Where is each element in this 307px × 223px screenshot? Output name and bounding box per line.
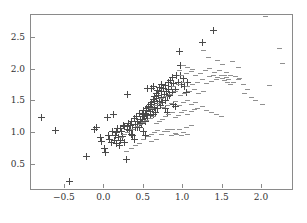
data-point-dash (160, 119, 165, 120)
data-point-dash (204, 110, 209, 111)
data-point-dash (212, 72, 217, 73)
data-point-dash (157, 103, 162, 104)
data-point-dash (159, 134, 164, 135)
data-point-dash (146, 136, 151, 137)
data-point-cross (144, 85, 151, 92)
data-point-dash (152, 132, 157, 133)
y-axis-tick-label: 2.0 (11, 64, 25, 74)
data-point-dash (245, 89, 250, 90)
data-point-dash (173, 91, 178, 92)
data-point-cross (176, 48, 183, 55)
data-point-dash (133, 145, 138, 146)
data-point-dash (159, 98, 164, 99)
data-point-dash (169, 135, 174, 136)
data-point-dash (185, 100, 190, 101)
data-point-dash (125, 132, 130, 133)
data-point-dash (163, 96, 168, 97)
data-point-dash (184, 127, 189, 128)
data-point-dash (130, 129, 135, 130)
data-point-dash (189, 104, 194, 105)
data-point-dash (155, 130, 160, 131)
data-point-dash (161, 107, 166, 108)
data-point-dash (173, 101, 178, 102)
data-point-dash (217, 70, 222, 71)
data-point-dash (154, 139, 159, 140)
data-point-dash (263, 16, 268, 17)
data-point-dash (280, 63, 285, 64)
data-point-cross (38, 114, 45, 121)
data-point-dash (211, 75, 216, 76)
data-point-dash (179, 112, 184, 113)
data-point-dash (215, 60, 220, 61)
data-point-cross (114, 125, 121, 132)
data-point-dash (138, 124, 143, 125)
data-point-dash (219, 116, 224, 117)
x-axis-tick-label: 1.0 (175, 192, 189, 202)
data-point-dash (209, 112, 214, 113)
data-point-dash (177, 105, 182, 106)
data-point-dash (230, 61, 235, 62)
data-point-cross (199, 39, 206, 46)
data-point-dash (154, 123, 159, 124)
data-point-dash (181, 82, 186, 83)
data-point-dash (214, 114, 219, 115)
data-point-dash (190, 84, 195, 85)
data-point-dash (189, 125, 194, 126)
data-point-dash (249, 97, 254, 98)
data-point-dash (206, 57, 211, 58)
data-point-dash (231, 82, 236, 83)
y-axis-tick (31, 132, 35, 133)
data-point-cross (83, 153, 90, 160)
data-point-dash (177, 129, 182, 130)
x-axis-tick-label: 2.0 (254, 192, 268, 202)
data-point-dash (260, 104, 265, 105)
data-point-dash (149, 134, 154, 135)
data-point-dash (176, 115, 181, 116)
data-point-dash (204, 83, 209, 84)
y-axis-tick-label: 1.5 (11, 95, 25, 105)
data-point-dash (214, 79, 219, 80)
x-axis-tick-label: 1.5 (214, 192, 228, 202)
data-point-dash (198, 73, 203, 74)
x-axis-tick (222, 184, 223, 188)
data-point-dash (228, 75, 233, 76)
data-point-dash (209, 81, 214, 82)
data-point-cross (123, 156, 130, 163)
y-axis-tick (31, 164, 35, 165)
y-axis-tick-label: 1.0 (11, 127, 25, 137)
data-point-dash (215, 77, 220, 78)
x-axis-tick-label: −0.5 (53, 192, 75, 202)
data-point-dash (141, 122, 146, 123)
x-axis-tick (261, 184, 262, 188)
data-point-dash (195, 82, 200, 83)
data-point-dash (219, 75, 224, 76)
data-point-dash (129, 148, 134, 149)
data-point-dash (181, 132, 186, 133)
data-point-dash (190, 69, 195, 70)
data-point-dash (196, 93, 201, 94)
scatter-plot-figure: 0.51.01.52.02.5−0.50.00.51.01.52.0 (0, 0, 307, 223)
data-point-dash (181, 102, 186, 103)
data-point-cross (66, 178, 73, 185)
x-axis-tick-label: 0.5 (136, 192, 150, 202)
plot-frame (30, 14, 293, 190)
data-point-dash (185, 114, 190, 115)
data-point-cross (102, 149, 109, 156)
data-point-cross (93, 124, 100, 131)
data-point-dash (182, 93, 187, 94)
data-point-dash (228, 84, 233, 85)
data-point-dash (149, 108, 154, 109)
data-point-dash (141, 139, 146, 140)
data-point-dash (195, 108, 200, 109)
data-point-dash (236, 67, 241, 68)
x-axis-tick (143, 184, 144, 188)
data-point-dash (192, 89, 197, 90)
data-point-dash (170, 129, 175, 130)
data-point-dash (187, 91, 192, 92)
data-points-layer (31, 15, 292, 189)
data-point-dash (237, 78, 242, 79)
data-point-dash (184, 73, 189, 74)
y-axis-tick (31, 100, 35, 101)
data-point-cross (131, 136, 138, 143)
data-point-dash (185, 134, 190, 135)
